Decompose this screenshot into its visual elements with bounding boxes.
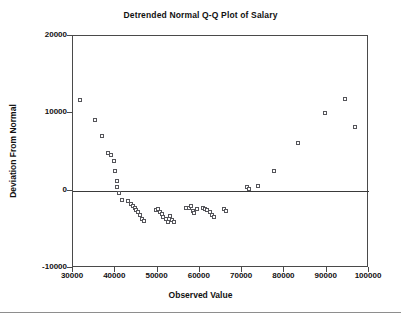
data-point (247, 187, 251, 191)
x-axis-tick-mark (326, 267, 327, 272)
y-axis-tick-label: -10000 (42, 262, 67, 271)
x-axis-tick-mark (241, 267, 242, 272)
data-point (117, 191, 121, 195)
data-point (109, 153, 113, 157)
data-point (323, 111, 327, 115)
data-point (272, 169, 276, 173)
data-point (256, 184, 260, 188)
x-axis-tick-mark (114, 267, 115, 272)
chart-title: Detrended Normal Q-Q Plot of Salary (0, 10, 401, 20)
data-point (93, 118, 97, 122)
data-point (113, 169, 117, 173)
data-point (172, 220, 176, 224)
data-point (189, 204, 193, 208)
data-point (142, 219, 146, 223)
data-point (224, 209, 228, 213)
data-point (120, 198, 124, 202)
data-point (115, 185, 119, 189)
data-point (192, 211, 196, 215)
y-axis-title: Deviation From Normal (6, 35, 20, 267)
footer-divider (0, 312, 401, 313)
plot-area (72, 35, 368, 267)
data-point (112, 159, 116, 163)
data-point (296, 141, 300, 145)
x-axis-tick-mark (199, 267, 200, 272)
chart-figure: Detrended Normal Q-Q Plot of Salary Devi… (0, 0, 401, 324)
y-axis-tick-label: 20000 (45, 30, 67, 39)
x-axis-tick-mark (283, 267, 284, 272)
x-axis-tick-label: 100000 (338, 271, 398, 280)
data-point (212, 215, 216, 219)
x-axis-tick-mark (368, 267, 369, 272)
data-point (195, 207, 199, 211)
data-point (115, 179, 119, 183)
x-axis-tick-mark (157, 267, 158, 272)
x-axis-tick-mark (72, 267, 73, 272)
x-axis-title: Observed Value (0, 290, 401, 300)
data-point (343, 97, 347, 101)
data-point (78, 98, 82, 102)
y-axis-tick-label: 10000 (45, 107, 67, 116)
data-point (100, 134, 104, 138)
data-point (353, 125, 357, 129)
